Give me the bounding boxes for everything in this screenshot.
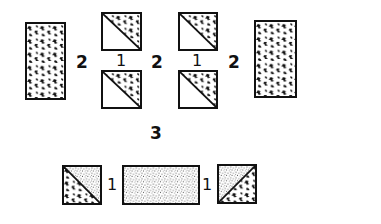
center-rectangle-speckled (122, 165, 200, 205)
hst-bottom-right (217, 164, 257, 204)
step-label: 3 (150, 125, 162, 142)
hst-col2-bottom (178, 70, 218, 109)
hst-col1-top (101, 12, 142, 51)
seam-label-middle: 2 (151, 54, 163, 71)
seam-label-left: 2 (76, 54, 88, 71)
seam-label-col2: 1 (192, 53, 202, 69)
hst-bottom-left (62, 165, 102, 205)
seam-label-right: 2 (228, 54, 240, 71)
left-rectangle-print (25, 22, 66, 100)
hst-col2-top (178, 12, 218, 51)
seam-label-bottom-right: 1 (202, 177, 212, 193)
seam-label-bottom-left: 1 (107, 177, 117, 193)
hst-col1-bottom (101, 70, 142, 109)
right-rectangle-print (254, 20, 297, 98)
seam-label-col1: 1 (116, 53, 126, 69)
